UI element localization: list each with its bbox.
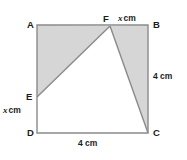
- vertex-label-d: D: [27, 128, 34, 138]
- geometry-figure: A B C D E F xcm xcm 4 cm 4 cm: [0, 0, 187, 160]
- measure-label-dc-4cm: 4 cm: [78, 139, 97, 148]
- unit-label-left: cm: [9, 105, 21, 115]
- vertex-label-f: F: [103, 14, 109, 24]
- measure-label-fb-x: xcm: [118, 14, 136, 23]
- vertex-label-c: C: [153, 128, 160, 138]
- vertex-label-b: B: [153, 20, 160, 30]
- vertex-label-a: A: [27, 20, 34, 30]
- unit-label-top: cm: [124, 13, 136, 23]
- measure-label-bc-4cm: 4 cm: [153, 72, 172, 81]
- vertex-label-e: E: [26, 92, 32, 102]
- measure-label-ed-x: xcm: [3, 106, 21, 115]
